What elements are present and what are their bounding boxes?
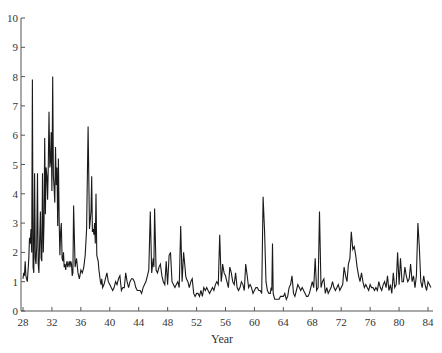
y-tick-label: 8 bbox=[13, 71, 19, 83]
y-tick-label: 2 bbox=[13, 246, 19, 258]
x-tick-label: 80 bbox=[394, 316, 406, 328]
x-axis-title: Year bbox=[211, 332, 233, 346]
x-tick-label: 72 bbox=[336, 316, 347, 328]
y-tick-label: 7 bbox=[13, 100, 19, 112]
x-tick-label: 56 bbox=[220, 316, 232, 328]
y-axis: 012345678910 bbox=[7, 12, 25, 317]
x-tick-label: 40 bbox=[104, 316, 116, 328]
y-tick-label: 6 bbox=[13, 129, 19, 141]
x-tick-label: 32 bbox=[46, 316, 57, 328]
y-tick-label: 10 bbox=[7, 12, 19, 24]
y-tick-label: 1 bbox=[13, 276, 19, 288]
y-tick-label: 4 bbox=[13, 188, 19, 200]
x-tick-label: 48 bbox=[162, 316, 174, 328]
x-tick-label: 52 bbox=[191, 316, 202, 328]
y-tick-label: 9 bbox=[13, 41, 19, 53]
x-tick-label: 64 bbox=[278, 316, 290, 328]
data-series-line bbox=[23, 77, 431, 300]
x-tick-label: 84 bbox=[423, 316, 435, 328]
x-tick-label: 68 bbox=[307, 316, 319, 328]
y-tick-label: 5 bbox=[13, 159, 19, 171]
line-chart: 012345678910 283236404448525660646872768… bbox=[0, 0, 442, 353]
x-tick-label: 76 bbox=[365, 316, 377, 328]
x-tick-label: 60 bbox=[249, 316, 261, 328]
x-tick-label: 44 bbox=[133, 316, 145, 328]
y-tick-label: 3 bbox=[13, 217, 19, 229]
x-tick-label: 36 bbox=[75, 316, 87, 328]
x-tick-label: 28 bbox=[18, 316, 30, 328]
x-axis: 283236404448525660646872768084 bbox=[18, 307, 435, 328]
